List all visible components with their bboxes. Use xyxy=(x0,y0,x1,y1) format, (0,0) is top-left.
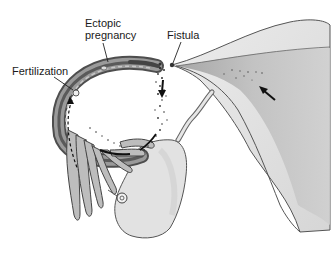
label-fertilization: Fertilization xyxy=(12,65,68,77)
uterus xyxy=(172,20,330,232)
diagram-canvas: Ectopic pregnancy Fistula Fertilization xyxy=(0,0,335,259)
follicle-icon xyxy=(117,193,127,203)
label-ectopic-line2: pregnancy xyxy=(85,29,136,41)
sperm-stream xyxy=(143,67,168,151)
fistula-point xyxy=(170,63,174,67)
label-fistula: Fistula xyxy=(167,29,199,41)
arrow-down-icon xyxy=(158,80,166,98)
label-ectopic-pregnancy: Ectopic pregnancy xyxy=(85,17,136,41)
label-ectopic-line1: Ectopic xyxy=(85,17,136,29)
leader-fistula xyxy=(173,42,181,63)
